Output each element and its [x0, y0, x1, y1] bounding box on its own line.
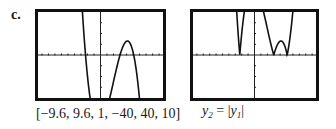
- graph-y1: [38, 12, 163, 98]
- part-label: c.: [11, 7, 21, 23]
- graph-y2-abs: [193, 12, 316, 98]
- calculator-screen-y1: [35, 9, 166, 101]
- equals: =: [213, 103, 228, 118]
- function-caption: y2 = |y1|: [202, 103, 244, 120]
- window-caption: [−9.6, 9.6, 1, −40, 40, 10]: [36, 106, 180, 122]
- abs-bar-right: |: [241, 103, 244, 118]
- calculator-screen-y2: [190, 9, 319, 101]
